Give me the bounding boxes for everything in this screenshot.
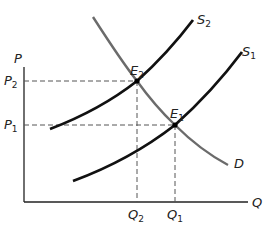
- y-axis-label: P: [14, 51, 22, 66]
- s2-label: S2: [197, 12, 211, 29]
- q2-label: Q2: [128, 207, 144, 224]
- p1-label: P1: [4, 117, 18, 134]
- equilibrium-point-e1: [172, 122, 177, 127]
- d-label: D: [234, 156, 244, 171]
- e1-label: E1: [170, 106, 184, 123]
- e2-label: E2: [130, 63, 144, 80]
- supply-curve-s1: [73, 52, 242, 181]
- q1-label: Q1: [167, 207, 183, 224]
- x-axis-label: Q: [252, 195, 262, 210]
- p2-label: P2: [4, 73, 18, 90]
- s1-label: S1: [242, 44, 256, 61]
- supply-demand-diagram: P Q P2 P1 Q2 Q1 S2 S1 D E2 E1: [0, 0, 269, 232]
